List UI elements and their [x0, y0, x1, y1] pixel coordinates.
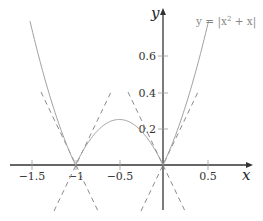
x-tick-label: −1.5: [19, 170, 46, 183]
chart-canvas: −1.5 −1 −0.5 0.5 0.2 0.4 0.6 x y y = |x2…: [0, 0, 263, 221]
curve-abs-x2-plus-x: [30, 21, 209, 165]
legend-label: y = |x2 + x|: [195, 15, 256, 29]
y-axis-label: y: [150, 4, 160, 22]
y-axis-arrow-icon: [160, 8, 166, 15]
x-tick-label: 0.5: [199, 170, 217, 183]
y-tick-label: 0.4: [139, 87, 157, 100]
x-tick-label: −0.5: [107, 170, 134, 183]
y-tick-label: 0.2: [139, 123, 157, 136]
x-axis-label: x: [242, 166, 251, 184]
y-tick-label: 0.6: [139, 50, 157, 63]
tangent-lines: [41, 92, 198, 211]
